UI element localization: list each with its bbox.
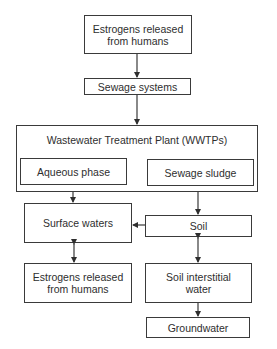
node-estrogens-released-bottom: Estrogens released from humans: [24, 263, 132, 303]
node-groundwater: Groundwater: [146, 317, 250, 338]
node-label: Sewage sludge: [165, 167, 237, 179]
node-label-line1: Estrogens released: [33, 271, 123, 283]
node-sewage-sludge: Sewage sludge: [147, 159, 254, 186]
node-label: Groundwater: [168, 322, 229, 334]
node-label: Aqueous phase: [37, 166, 110, 178]
node-label-line1: Estrogens released: [93, 23, 183, 35]
wwtp-title: Wastewater Treatment Plant (WWTPs): [17, 134, 257, 146]
node-label: Sewage systems: [98, 81, 177, 93]
node-label-line1: Soil interstitial: [166, 271, 231, 283]
node-sewage-systems: Sewage systems: [84, 78, 191, 95]
node-label: Soil: [190, 220, 208, 232]
node-label: Surface waters: [43, 217, 113, 229]
node-label-line2: water: [166, 283, 231, 295]
node-soil: Soil: [145, 215, 252, 237]
node-label-line2: from humans: [93, 35, 183, 47]
node-estrogens-released-top: Estrogens released from humans: [84, 15, 192, 54]
node-label-line2: from humans: [33, 283, 123, 295]
node-surface-waters: Surface waters: [24, 203, 132, 243]
node-aqueous-phase: Aqueous phase: [20, 158, 127, 185]
node-soil-interstitial-water: Soil interstitial water: [145, 263, 252, 303]
